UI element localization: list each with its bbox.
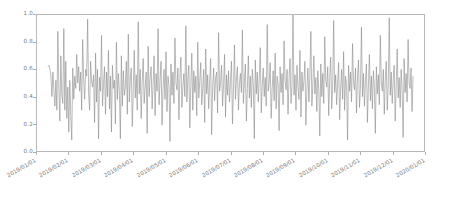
x-tick-label: 2019/02/01 [37,158,69,180]
x-tick-label: 2019/07/01 [199,158,231,180]
x-tick-mark [393,152,394,155]
x-tick-mark [328,152,329,155]
x-tick-mark [166,152,167,155]
x-tick-label: 2019/11/01 [329,158,361,180]
plot-area [36,14,425,152]
x-tick-mark [101,152,102,155]
x-tick-mark [360,152,361,155]
x-tick-label: 2019/04/01 [102,158,134,180]
x-tick-label: 2019/08/01 [232,158,264,180]
x-tick-mark [36,152,37,155]
x-tick-mark [295,152,296,155]
y-tick-mark [33,124,36,125]
x-tick-label: 2019/09/01 [264,158,296,180]
x-tick-label: 2019/01/01 [5,158,37,180]
x-tick-label: 2019/03/01 [70,158,102,180]
x-tick-mark [133,152,134,155]
chart-figure: 1.00.80.60.40.20.02019/01/012019/02/0120… [0,0,449,200]
x-tick-mark [198,152,199,155]
y-tick-mark [33,97,36,98]
x-tick-label: 2020/01/01 [394,158,426,180]
x-tick-label: 2019/12/01 [361,158,393,180]
x-tick-label: 2019/05/01 [134,158,166,180]
x-tick-mark [425,152,426,155]
y-tick-mark [33,69,36,70]
x-tick-label: 2019/10/01 [297,158,329,180]
x-tick-mark [68,152,69,155]
y-tick-mark [33,42,36,43]
x-tick-mark [231,152,232,155]
y-tick-mark [33,14,36,15]
series-line [37,15,424,151]
x-tick-label: 2019/06/01 [167,158,199,180]
x-tick-mark [263,152,264,155]
